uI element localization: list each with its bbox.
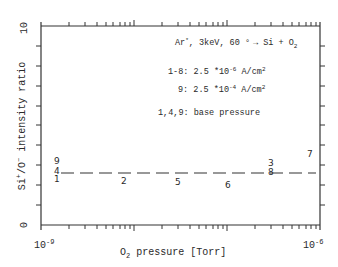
point-label-9: 9 [54, 156, 60, 166]
data-point-labels: 9 4 1 2 5 6 3 8 7 [54, 149, 313, 190]
y-tick-label-bottom: 0 [19, 222, 30, 228]
annotation-line-2: 1-8: 2.5 *10-6 A/cm2 [168, 66, 266, 77]
x-axis-label: O2 pressure [Torr] [120, 247, 226, 260]
x-axis-ticks [69, 20, 316, 231]
y-axis-label: Si+/O− intensity ratio [15, 62, 28, 190]
point-label-2: 2 [121, 176, 127, 186]
point-label-1: 1 [54, 174, 60, 184]
annotation-block: Ar*, 3keV, 60 °→ Si + O2 1-8: 2.5 *10-6 … [158, 37, 298, 118]
point-label-5: 5 [175, 177, 181, 187]
point-label-6: 6 [225, 180, 231, 190]
x-tick-label-left: 10-9 [34, 238, 54, 251]
annotation-line-1: Ar*, 3keV, 60 °→ Si + O2 [175, 37, 298, 50]
point-label-8: 8 [268, 167, 274, 177]
chart: 10 0 Si+/O− intensity ratio 10-9 10-6 O2… [0, 0, 338, 267]
x-tick-label-right: 10-6 [303, 238, 323, 251]
plot-frame [41, 22, 320, 230]
annotation-line-4: 1,4,9: base pressure [158, 108, 260, 118]
annotation-line-3: 9: 2.5 *10-4 A/cm2 [178, 84, 266, 95]
point-label-7: 7 [307, 149, 313, 159]
y-tick-label-top: 10 [19, 22, 30, 34]
